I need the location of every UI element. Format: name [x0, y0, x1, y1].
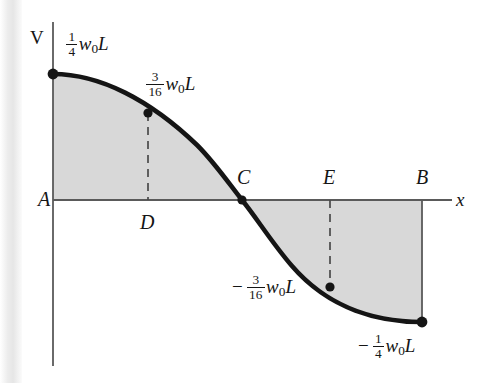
- v-axis-label: V: [30, 28, 44, 47]
- w-symbol: w: [385, 335, 398, 356]
- point-label-b: B: [416, 167, 428, 187]
- l-symbol: L: [405, 335, 416, 356]
- value-label-quarter-w0L: 14w0L: [62, 30, 109, 58]
- point-d: [143, 108, 152, 117]
- point-label-d: D: [140, 212, 154, 232]
- point-label-c: C: [237, 167, 250, 187]
- value-sign: −: [358, 335, 369, 356]
- fraction-three-sixteenths: 316: [146, 70, 164, 98]
- value-label-neg-three-sixteenths-w0L: −316w0L: [232, 273, 296, 301]
- point-label-a: A: [38, 189, 50, 209]
- value-label-three-sixteenths-w0L: 316w0L: [142, 70, 195, 98]
- point-b: [417, 317, 428, 328]
- w-subscript: 0: [178, 81, 185, 96]
- w-subscript: 0: [398, 343, 405, 358]
- point-label-e: E: [323, 167, 335, 187]
- w-symbol: w: [79, 33, 92, 54]
- fraction-three-sixteenths-neg: 316: [247, 273, 265, 301]
- point-c: [237, 195, 246, 204]
- l-symbol: L: [185, 73, 196, 94]
- fraction-one-quarter: 14: [66, 30, 77, 58]
- w-symbol: w: [266, 276, 279, 297]
- value-label-neg-quarter-w0L: −14w0L: [358, 332, 415, 360]
- l-symbol: L: [98, 33, 109, 54]
- point-a: [48, 69, 59, 80]
- w-symbol: w: [165, 73, 178, 94]
- shaded-area-negative: [242, 200, 422, 322]
- point-e: [325, 282, 334, 291]
- l-symbol: L: [285, 276, 296, 297]
- x-axis-label: x: [456, 190, 464, 209]
- value-sign: −: [232, 276, 243, 297]
- fraction-one-quarter-neg: 14: [373, 332, 384, 360]
